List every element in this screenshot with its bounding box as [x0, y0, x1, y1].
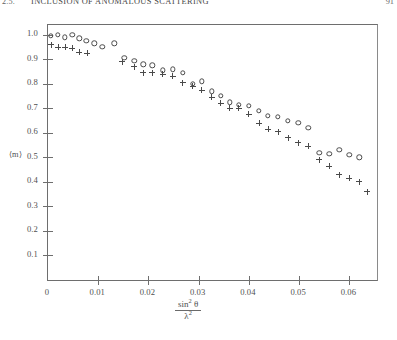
y-axis-tick-label: 1.0	[0, 28, 38, 38]
data-point-circle	[246, 103, 251, 108]
y-axis-tick-inner	[48, 108, 53, 109]
data-point-plus	[336, 172, 342, 178]
data-point-plus	[305, 143, 311, 149]
x-axis-tick-label: 0	[27, 287, 67, 297]
y-axis-tick-label: 0.1	[0, 249, 38, 259]
x-axis-tick-inner	[249, 276, 250, 281]
data-point-circle	[256, 108, 261, 113]
data-point-plus	[356, 179, 362, 185]
data-point-plus	[160, 71, 166, 77]
data-point-plus	[119, 59, 125, 65]
data-point-plus	[48, 42, 54, 48]
data-point-plus	[62, 44, 68, 50]
data-point-circle	[141, 62, 146, 67]
data-point-plus	[364, 189, 370, 195]
data-point-circle	[170, 66, 175, 71]
y-axis-tick-label: 0.8	[0, 77, 38, 87]
data-point-circle	[199, 79, 204, 84]
data-point-circle	[209, 88, 214, 93]
plot-frame	[47, 24, 378, 281]
y-axis-tick-label: 0.4	[0, 175, 38, 185]
x-axis-tick	[199, 280, 200, 286]
y-axis-tick-inner	[48, 84, 53, 85]
y-axis-tick-label: 0.9	[0, 53, 38, 63]
data-point-plus	[295, 140, 301, 146]
x-axis-tick-label: 0.04	[228, 287, 268, 297]
x-axis-tick-label: 0.01	[77, 287, 117, 297]
data-point-circle	[357, 155, 362, 160]
data-point-circle	[265, 113, 270, 118]
data-point-plus	[55, 44, 61, 50]
x-axis-tick	[249, 280, 250, 286]
plot-area	[48, 25, 377, 280]
x-axis-tick-inner	[148, 276, 149, 281]
data-point-plus	[246, 111, 252, 117]
x-axis-tick	[349, 280, 350, 286]
y-axis-tick-inner	[48, 59, 53, 60]
data-point-circle	[112, 41, 117, 46]
data-point-circle	[285, 118, 290, 123]
data-point-circle	[227, 100, 232, 105]
data-point-circle	[218, 93, 223, 98]
data-point-circle	[327, 151, 332, 156]
y-axis-tick-inner	[48, 255, 53, 256]
data-point-plus	[326, 163, 332, 169]
x-axis-tick	[98, 280, 99, 286]
data-point-circle	[55, 32, 60, 37]
y-axis-tick-inner	[48, 206, 53, 207]
data-point-plus	[69, 45, 75, 51]
data-point-circle	[132, 58, 137, 63]
data-point-circle	[337, 147, 342, 152]
data-point-plus	[131, 64, 137, 70]
y-axis-tick-label: 0.3	[0, 200, 38, 210]
x-axis-tick-inner	[349, 276, 350, 281]
data-point-plus	[190, 83, 196, 89]
y-axis-tick-inner	[48, 182, 53, 183]
y-axis-tick-label: 0.2	[0, 224, 38, 234]
data-point-circle	[100, 44, 105, 49]
y-axis-tick-inner	[48, 133, 53, 134]
x-axis-tick-inner	[299, 276, 300, 281]
data-point-plus	[236, 105, 242, 111]
y-axis-tick-inner	[48, 231, 53, 232]
x-axis-tick-inner	[98, 276, 99, 281]
data-point-circle	[317, 150, 322, 155]
data-point-circle	[180, 70, 185, 75]
data-point-plus	[170, 73, 176, 79]
data-point-plus	[275, 129, 281, 135]
data-point-plus	[218, 100, 224, 106]
data-point-circle	[62, 35, 67, 40]
x-axis-tick-inner	[199, 276, 200, 281]
y-axis-tick-label: 0.5	[0, 151, 38, 161]
data-point-circle	[305, 125, 310, 130]
figure-scatter-plot: ⟨m⟩ sin2 θ λ2 0.10.20.30.40.50.60.70.80.…	[0, 0, 397, 340]
data-point-plus	[76, 49, 82, 55]
y-axis-tick-label: 0.6	[0, 126, 38, 136]
data-point-plus	[346, 175, 352, 181]
data-point-circle	[83, 38, 88, 43]
x-axis-tick-label: 0.05	[278, 287, 318, 297]
data-point-plus	[149, 70, 155, 76]
data-point-plus	[180, 80, 186, 86]
data-point-plus	[285, 135, 291, 141]
x-axis-tick	[148, 280, 149, 286]
x-axis-title: sin2 θ λ2	[175, 300, 201, 322]
data-point-circle	[48, 33, 53, 38]
data-point-circle	[150, 63, 155, 68]
x-axis-tick-label: 0.06	[328, 287, 368, 297]
data-point-plus	[316, 157, 322, 163]
data-point-plus	[227, 105, 233, 111]
data-point-circle	[92, 41, 97, 46]
data-point-plus	[256, 120, 262, 126]
x-axis-tick-label: 0.02	[127, 287, 167, 297]
data-point-circle	[295, 120, 300, 125]
y-axis-tick-inner	[48, 157, 53, 158]
data-point-plus	[199, 87, 205, 93]
data-point-plus	[265, 126, 271, 132]
data-point-circle	[347, 152, 352, 157]
data-point-circle	[275, 114, 280, 119]
y-axis-tick-label: 0.7	[0, 102, 38, 112]
x-axis-title-denominator: λ2	[175, 311, 201, 321]
data-point-plus	[209, 94, 215, 100]
data-point-circle	[69, 32, 74, 37]
